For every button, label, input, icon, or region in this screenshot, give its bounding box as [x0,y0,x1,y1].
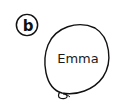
balloon-name: Emma [50,51,106,66]
